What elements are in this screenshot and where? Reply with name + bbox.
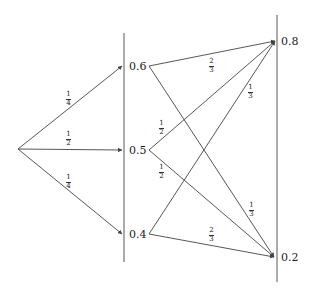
tree-diagram-canvas <box>0 0 315 297</box>
probability-fraction: 12 <box>159 120 164 136</box>
branch-edge <box>18 149 122 234</box>
probability-fraction: 14 <box>66 91 71 107</box>
fraction-denominator: 3 <box>209 67 213 74</box>
fraction-denominator: 4 <box>66 100 70 107</box>
fraction-numerator: 1 <box>248 84 252 91</box>
fraction-denominator: 3 <box>249 211 253 218</box>
node-label: 0.2 <box>281 252 299 263</box>
probability-fraction: 23 <box>209 58 214 74</box>
probability-fraction: 23 <box>209 227 214 243</box>
fraction-denominator: 2 <box>66 140 70 147</box>
probability-fraction: 13 <box>249 202 254 218</box>
fraction-numerator: 1 <box>159 164 163 171</box>
fraction-denominator: 3 <box>248 93 252 100</box>
fraction-numerator: 1 <box>66 91 70 98</box>
node-label: 0.8 <box>281 36 299 47</box>
fraction-numerator: 2 <box>209 227 213 234</box>
probability-fraction: 13 <box>248 84 253 100</box>
probability-fraction: 14 <box>66 174 71 190</box>
node-label: 0.4 <box>129 229 147 240</box>
node-label: 0.6 <box>129 61 147 72</box>
probability-fraction: 12 <box>159 164 164 180</box>
fraction-denominator: 3 <box>209 236 213 243</box>
fraction-numerator: 1 <box>249 202 253 209</box>
probability-fraction: 12 <box>66 131 71 147</box>
fraction-numerator: 1 <box>159 120 163 127</box>
branch-edge <box>18 149 122 150</box>
fraction-numerator: 1 <box>66 174 70 181</box>
fraction-denominator: 4 <box>66 183 70 190</box>
fraction-numerator: 2 <box>209 58 213 65</box>
fraction-denominator: 2 <box>159 173 163 180</box>
node-label: 0.5 <box>129 145 147 156</box>
fraction-denominator: 2 <box>159 129 163 136</box>
fraction-numerator: 1 <box>66 131 70 138</box>
